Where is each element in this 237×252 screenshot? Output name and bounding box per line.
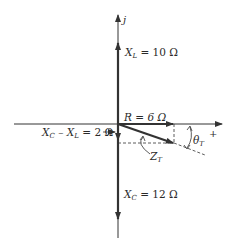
xc-label: XC = 12 Ω	[123, 188, 178, 202]
imaginary-axis-label: j	[121, 14, 126, 25]
zt-vector	[118, 124, 173, 143]
impedance-diagram: j + XL = 10 Ω R = 6 Ω XC – XL = 2 Ω ZT θ…	[0, 0, 237, 252]
theta-arc	[187, 127, 191, 148]
r-label: R = 6 Ω	[123, 111, 166, 123]
xc-minus-xl-label: XC – XL = 2 Ω	[41, 126, 113, 140]
xl-label: XL = 10 Ω	[124, 46, 178, 60]
theta-label: θT	[193, 134, 205, 148]
zt-leader	[141, 137, 150, 154]
real-axis-label: +	[209, 128, 217, 139]
zt-label: ZT	[149, 150, 163, 164]
